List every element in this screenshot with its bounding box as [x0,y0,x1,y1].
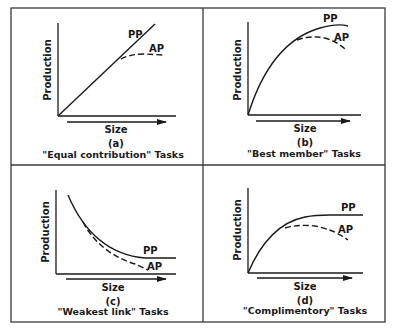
x-axis-label: Size [101,282,124,293]
panel-caption: "Best member" Tasks [247,148,361,159]
pp-curve [248,25,348,115]
panel-caption: "Complimentory" Tasks [243,305,368,316]
panel-caption: "Equal contribution" Tasks [42,149,184,160]
ap-label: AP [149,43,164,54]
x-axis-label: Size [293,281,316,292]
ap-curve [121,54,163,59]
pp-label: PP [323,13,338,24]
panel-letter: (b) [297,137,313,148]
x-axis-label: Size [293,123,316,134]
y-axis-label: Production [42,39,53,101]
panel-b: Production Size PP AP (b) "Best member" … [232,13,361,159]
figure-canvas: Production Size PP AP (a) "Equal contrib… [0,0,394,330]
ap-label: AP [338,224,353,235]
panel-d: Production Size PP AP (d) "Complimentory… [232,188,367,316]
y-axis-label: Production [40,201,51,263]
ap-label: AP [334,32,349,43]
pp-label: PP [143,245,158,256]
y-axis-label: Production [232,199,243,261]
pp-label: PP [128,29,143,40]
ap-label: AP [147,261,162,272]
y-axis-label: Production [232,39,243,101]
panel-letter: (a) [108,138,124,149]
panel-c: Production Size PP AP (c) "Weakest link"… [40,190,176,317]
ap-curve [83,222,148,270]
pp-label: PP [341,202,356,213]
x-axis-label: Size [104,124,127,135]
panel-a: Production Size PP AP (a) "Equal contrib… [42,23,184,160]
four-panel-figure: Production Size PP AP (a) "Equal contrib… [0,0,394,330]
panel-caption: "Weakest link" Tasks [57,306,168,317]
pp-curve [68,195,176,258]
